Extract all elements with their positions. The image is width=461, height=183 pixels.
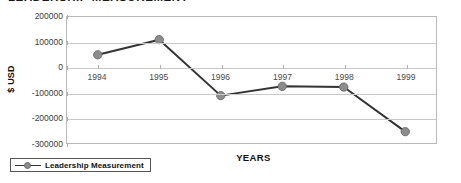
x-axis-tick-mark: [407, 65, 408, 69]
y-axis-tick-labels: 2000001000000-100000-200000-300000: [0, 16, 63, 144]
x-axis-tick-label: 1997: [273, 72, 292, 82]
y-axis-tick-label: -200000: [1, 113, 63, 123]
y-axis-tick-label: 100000: [1, 37, 63, 47]
x-axis-tick-mark: [98, 65, 99, 69]
x-axis-tick-label: 1995: [149, 72, 168, 82]
x-axis-tick-mark: [283, 65, 284, 69]
legend-label: Leadership Measurement: [45, 161, 144, 170]
legend-marker-icon: [15, 161, 41, 170]
y-axis-tick-label: 200000: [1, 11, 63, 21]
y-axis-tick-label: 0: [1, 62, 63, 72]
data-point-marker: [94, 51, 102, 59]
x-axis-tick-mark: [160, 65, 161, 69]
x-axis-tick-label: 1996: [211, 72, 230, 82]
y-axis-tick-label: -300000: [1, 139, 63, 149]
chart-container: LEADERSHIP MEASUREMENT $ USD 20000010000…: [0, 0, 461, 183]
y-axis-tick-mark: [67, 92, 68, 96]
chart-legend: Leadership Measurement: [10, 158, 151, 172]
y-axis-tick-label: -100000: [1, 88, 63, 98]
series-line: [98, 40, 405, 132]
y-axis-tick-mark: [67, 15, 68, 19]
data-point-marker: [278, 82, 286, 90]
data-point-marker: [340, 83, 348, 91]
gridline: [67, 119, 436, 120]
chart-title: LEADERSHIP MEASUREMENT: [8, 0, 188, 3]
x-axis-tick-label: 1998: [335, 72, 354, 82]
x-axis-tick-mark: [345, 65, 346, 69]
y-axis-tick-mark: [67, 66, 68, 70]
data-point-marker: [217, 91, 225, 99]
x-axis-tick-label: 1999: [397, 72, 416, 82]
x-axis-tick-mark: [222, 65, 223, 69]
y-axis-tick-mark: [67, 143, 68, 147]
series-leadership-measurement: [67, 17, 436, 143]
y-axis-tick-mark: [67, 117, 68, 121]
data-point-marker: [401, 128, 409, 136]
gridline: [67, 68, 436, 69]
gridline: [67, 43, 436, 44]
plot-area: [66, 16, 437, 144]
gridline: [67, 94, 436, 95]
y-axis-tick-mark: [67, 41, 68, 45]
x-axis-tick-label: 1994: [87, 72, 106, 82]
